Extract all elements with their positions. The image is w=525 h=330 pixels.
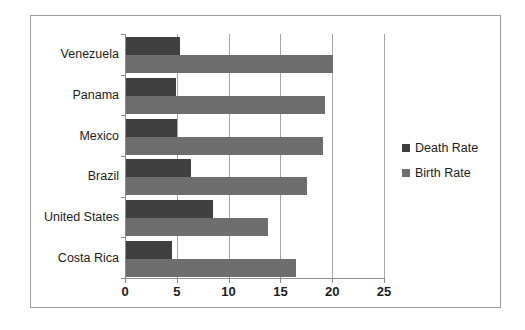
- legend-swatch-icon: [402, 144, 410, 152]
- y-tick-end: [121, 278, 125, 279]
- x-tick-10: [229, 278, 230, 283]
- x-tick-0: [125, 278, 126, 283]
- legend-label: Death Rate: [415, 141, 478, 155]
- x-axis-line: [125, 278, 384, 279]
- x-tick-label-10: 10: [221, 284, 235, 299]
- category-label-brazil: Brazil: [88, 169, 119, 183]
- x-tick-label-15: 15: [273, 284, 287, 299]
- legend-label: Birth Rate: [415, 166, 471, 180]
- legend-item-death-rate[interactable]: Death Rate: [402, 141, 478, 155]
- x-axis-tick-labels: 0510152025: [125, 34, 384, 278]
- x-tick-label-20: 20: [325, 284, 339, 299]
- gridline-25: [384, 34, 385, 278]
- x-tick-25: [384, 278, 385, 283]
- x-tick-label-25: 25: [377, 284, 391, 299]
- y-axis-category-labels: VenezuelaPanamaMexicoBrazilUnited States…: [31, 34, 119, 278]
- category-label-united-states: United States: [44, 210, 119, 224]
- legend-swatch-icon: [402, 169, 410, 177]
- category-label-panama: Panama: [72, 88, 119, 102]
- category-label-venezuela: Venezuela: [61, 47, 119, 61]
- chart-frame: VenezuelaPanamaMexicoBrazilUnited States…: [30, 15, 501, 308]
- category-label-costa-rica: Costa Rica: [58, 251, 119, 265]
- x-tick-label-5: 5: [173, 284, 180, 299]
- x-tick-20: [332, 278, 333, 283]
- chart-legend: Death RateBirth Rate: [402, 141, 478, 191]
- category-label-mexico: Mexico: [79, 129, 119, 143]
- legend-item-birth-rate[interactable]: Birth Rate: [402, 166, 478, 180]
- x-tick-15: [280, 278, 281, 283]
- x-tick-label-0: 0: [121, 284, 128, 299]
- x-tick-5: [177, 278, 178, 283]
